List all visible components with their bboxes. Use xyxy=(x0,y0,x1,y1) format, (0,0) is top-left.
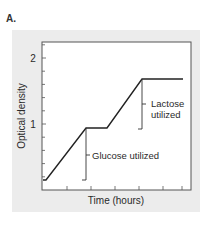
y-axis-label: Optical density xyxy=(16,83,27,149)
y-tick-label-1: 1 xyxy=(30,119,36,130)
lactose-annotation-line1: Lactose xyxy=(151,98,184,109)
x-axis-label: Time (hours) xyxy=(88,195,144,206)
lactose-annotation-line2: utilized xyxy=(151,109,181,120)
y-tick-label-2: 2 xyxy=(30,53,36,64)
glucose-annotation: Glucose utilized xyxy=(92,150,159,161)
chart: 2 1 Time (hours) Optical density Glucose… xyxy=(0,0,213,232)
